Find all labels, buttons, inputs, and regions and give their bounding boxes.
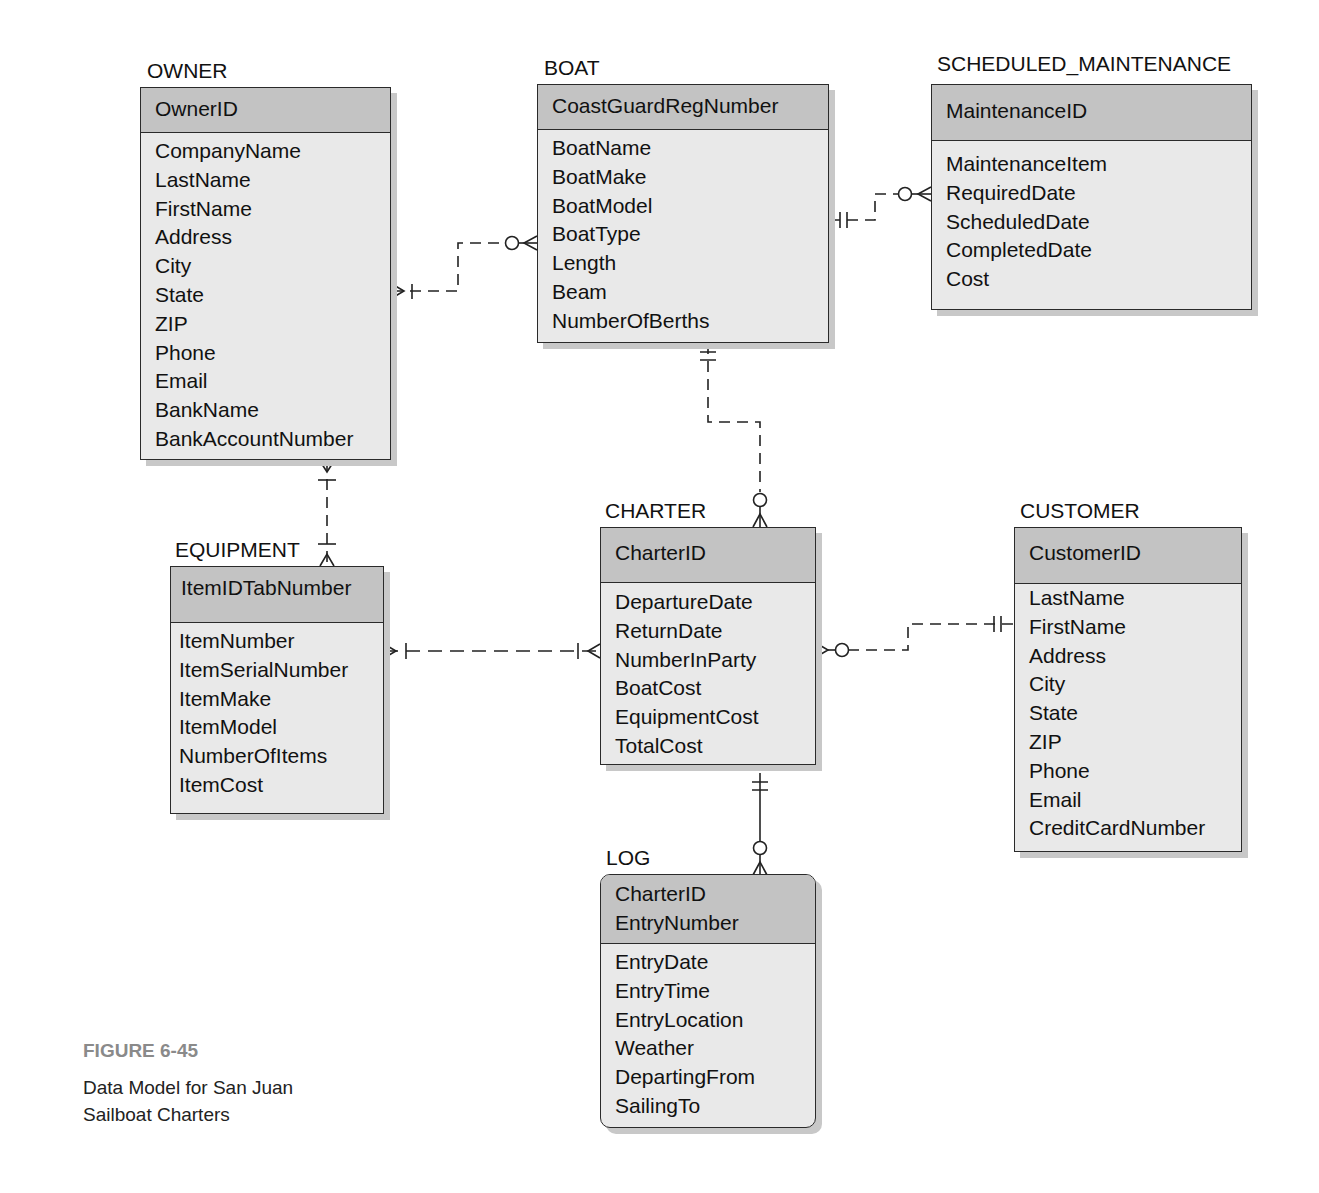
- figure-description-line-2: Sailboat Charters: [83, 1101, 293, 1128]
- charter-customer-relationship: [816, 616, 1014, 657]
- attribute: CreditCardNumber: [1029, 814, 1241, 843]
- owner-primary-key: OwnerID: [141, 88, 390, 133]
- entity-equipment[interactable]: ItemIDTabNumber ItemNumber ItemSerialNum…: [170, 566, 384, 814]
- attribute: ItemCost: [179, 771, 383, 800]
- attribute: BoatType: [552, 220, 828, 249]
- boat-charter-relationship: [700, 343, 767, 527]
- figure-description-line-1: Data Model for San Juan: [83, 1074, 293, 1101]
- attribute: ZIP: [155, 310, 390, 339]
- entity-title-charter: CHARTER: [605, 499, 706, 523]
- key-attribute: CustomerID: [1029, 538, 1241, 567]
- attribute: BoatCost: [615, 674, 815, 703]
- attribute: CompletedDate: [946, 236, 1251, 265]
- boat-primary-key: CoastGuardRegNumber: [538, 85, 828, 130]
- entity-owner[interactable]: OwnerID CompanyName LastName FirstName A…: [140, 87, 391, 460]
- attribute: DepartureDate: [615, 588, 815, 617]
- boat-attributes: BoatName BoatMake BoatModel BoatType Len…: [538, 130, 828, 336]
- attribute: EntryDate: [615, 948, 815, 977]
- figure-caption: FIGURE 6-45 Data Model for San Juan Sail…: [83, 1040, 293, 1128]
- key-attribute: EntryNumber: [615, 908, 815, 937]
- log-attributes: EntryDate EntryTime EntryLocation Weathe…: [601, 944, 815, 1121]
- attribute: Address: [155, 223, 390, 252]
- attribute: FirstName: [1029, 613, 1241, 642]
- attribute: ItemNumber: [179, 627, 383, 656]
- attribute: Email: [1029, 786, 1241, 815]
- key-attribute: CharterID: [615, 879, 815, 908]
- attribute: NumberOfBerths: [552, 307, 828, 336]
- charter-primary-key: CharterID: [601, 528, 815, 583]
- attribute: Beam: [552, 278, 828, 307]
- attribute: Cost: [946, 265, 1251, 294]
- attribute: State: [155, 281, 390, 310]
- equipment-charter-relationship: [384, 643, 600, 659]
- attribute: BoatName: [552, 134, 828, 163]
- entity-title-customer: CUSTOMER: [1020, 499, 1140, 523]
- charter-attributes: DepartureDate ReturnDate NumberInParty B…: [601, 583, 815, 761]
- key-attribute: CoastGuardRegNumber: [552, 91, 828, 120]
- attribute: Phone: [155, 339, 390, 368]
- owner-boat-relationship: [392, 236, 537, 299]
- attribute: Email: [155, 367, 390, 396]
- attribute: MaintenanceItem: [946, 150, 1251, 179]
- attribute: LastName: [1029, 584, 1241, 613]
- entity-title-scheduled-maintenance: SCHEDULED_MAINTENANCE: [937, 52, 1231, 76]
- attribute: BankName: [155, 396, 390, 425]
- entity-title-log: LOG: [606, 846, 650, 870]
- equipment-attributes: ItemNumber ItemSerialNumber ItemMake Ite…: [171, 623, 383, 800]
- boat-maintenance-relationship: [829, 187, 931, 228]
- scheduled-maintenance-attributes: MaintenanceItem RequiredDate ScheduledDa…: [932, 141, 1251, 294]
- attribute: City: [1029, 670, 1241, 699]
- attribute: CompanyName: [155, 137, 390, 166]
- attribute: RequiredDate: [946, 179, 1251, 208]
- attribute: Length: [552, 249, 828, 278]
- entity-scheduled-maintenance[interactable]: MaintenanceID MaintenanceItem RequiredDa…: [931, 84, 1252, 310]
- attribute: EntryTime: [615, 977, 815, 1006]
- attribute: Address: [1029, 642, 1241, 671]
- attribute: Phone: [1029, 757, 1241, 786]
- attribute: TotalCost: [615, 732, 815, 761]
- attribute: Weather: [615, 1034, 815, 1063]
- log-primary-key: CharterID EntryNumber: [601, 875, 815, 944]
- attribute: BankAccountNumber: [155, 425, 390, 454]
- attribute: FirstName: [155, 195, 390, 224]
- attribute: ItemSerialNumber: [179, 656, 383, 685]
- attribute: BoatModel: [552, 192, 828, 221]
- attribute: ReturnDate: [615, 617, 815, 646]
- entity-boat[interactable]: CoastGuardRegNumber BoatName BoatMake Bo…: [537, 84, 829, 343]
- customer-primary-key: CustomerID: [1015, 528, 1241, 584]
- attribute: DepartingFrom: [615, 1063, 815, 1092]
- attribute: City: [155, 252, 390, 281]
- attribute: BoatMake: [552, 163, 828, 192]
- owner-equipment-relationship: [318, 461, 336, 566]
- attribute: ItemModel: [179, 713, 383, 742]
- figure-number: FIGURE 6-45: [83, 1040, 293, 1062]
- key-attribute: ItemIDTabNumber: [181, 573, 383, 602]
- entity-title-boat: BOAT: [544, 56, 600, 80]
- attribute: NumberOfItems: [179, 742, 383, 771]
- owner-attributes: CompanyName LastName FirstName Address C…: [141, 133, 390, 454]
- entity-customer[interactable]: CustomerID LastName FirstName Address Ci…: [1014, 527, 1242, 852]
- attribute: State: [1029, 699, 1241, 728]
- equipment-primary-key: ItemIDTabNumber: [171, 567, 383, 623]
- attribute: LastName: [155, 166, 390, 195]
- key-attribute: MaintenanceID: [946, 96, 1251, 125]
- entity-charter[interactable]: CharterID DepartureDate ReturnDate Numbe…: [600, 527, 816, 765]
- entity-title-equipment: EQUIPMENT: [175, 538, 300, 562]
- attribute: EntryLocation: [615, 1006, 815, 1035]
- attribute: ScheduledDate: [946, 208, 1251, 237]
- charter-log-relationship: [752, 773, 768, 875]
- attribute: ZIP: [1029, 728, 1241, 757]
- key-attribute: CharterID: [615, 538, 815, 567]
- scheduled-maintenance-primary-key: MaintenanceID: [932, 85, 1251, 141]
- attribute: EquipmentCost: [615, 703, 815, 732]
- key-attribute: OwnerID: [155, 94, 390, 123]
- customer-attributes: LastName FirstName Address City State ZI…: [1015, 584, 1241, 843]
- attribute: SailingTo: [615, 1092, 815, 1121]
- attribute: ItemMake: [179, 685, 383, 714]
- entity-title-owner: OWNER: [147, 59, 228, 83]
- attribute: NumberInParty: [615, 646, 815, 675]
- entity-log[interactable]: CharterID EntryNumber EntryDate EntryTim…: [600, 874, 816, 1128]
